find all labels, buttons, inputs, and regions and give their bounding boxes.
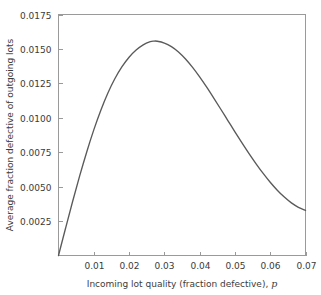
x-axis-title-symbol: p xyxy=(271,278,277,289)
x-axis-title-text: Incoming lot quality (fraction defective… xyxy=(87,279,271,289)
x-tick-label: 0.06 xyxy=(260,261,280,271)
x-tick-label: 0.01 xyxy=(84,261,104,271)
x-axis-tick-labels: 0.010.020.030.040.050.060.07 xyxy=(84,261,316,271)
y-tick-label: 0.0050 xyxy=(20,183,52,193)
x-axis-title: Incoming lot quality (fraction defective… xyxy=(87,278,277,289)
y-axis-title: Average fraction defective of outgoing l… xyxy=(5,38,15,231)
y-tick-label: 0.0100 xyxy=(20,114,52,124)
x-tick-label: 0.03 xyxy=(154,261,174,271)
y-tick-label: 0.0075 xyxy=(20,148,52,158)
y-tick-label: 0.0025 xyxy=(20,217,52,227)
y-tick-label: 0.0175 xyxy=(20,11,52,21)
x-axis-ticks xyxy=(95,252,307,256)
chart-canvas: 0.00250.00500.00750.01000.01250.01500.01… xyxy=(0,0,321,295)
aoq-curve-line xyxy=(59,41,306,255)
y-axis-ticks xyxy=(59,16,63,222)
x-tick-label: 0.05 xyxy=(225,261,245,271)
aoq-chart: 0.00250.00500.00750.01000.01250.01500.01… xyxy=(0,0,321,295)
y-tick-label: 0.0125 xyxy=(20,79,52,89)
y-axis-tick-labels: 0.00250.00500.00750.01000.01250.01500.01… xyxy=(20,11,52,227)
y-tick-label: 0.0150 xyxy=(20,45,52,55)
x-tick-label: 0.04 xyxy=(190,261,210,271)
x-tick-label: 0.07 xyxy=(296,261,316,271)
axes-frame xyxy=(59,15,306,256)
x-tick-label: 0.02 xyxy=(119,261,139,271)
plot-frame xyxy=(59,15,306,256)
